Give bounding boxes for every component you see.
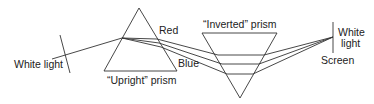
label-red: Red xyxy=(159,24,178,36)
label-inverted-prism: “Inverted” prism xyxy=(203,18,277,30)
dispersed-rays-in-upright-prism xyxy=(122,38,161,47)
upright-prism xyxy=(104,8,177,71)
label-white-light-source: White light xyxy=(14,58,63,70)
label-upright-prism: “Upright” prism xyxy=(107,74,177,86)
inverted-prism xyxy=(202,33,277,98)
incoming-white-ray xyxy=(52,38,122,59)
prism-diagram: White light Red Blue “Upright” prism “In… xyxy=(0,0,374,104)
label-blue: Blue xyxy=(178,57,199,69)
label-light-screen: light xyxy=(341,37,360,49)
rays-in-inverted-prism xyxy=(218,55,264,74)
label-screen: Screen xyxy=(321,54,354,66)
